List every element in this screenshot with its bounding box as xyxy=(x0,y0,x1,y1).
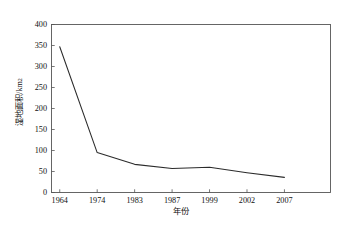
y-tick-label-50: 50 xyxy=(39,167,47,176)
y-axis-tick-labels: 050100150200250300350400 xyxy=(35,20,47,197)
x-axis-tick-labels: 1964197419831987199920022007 xyxy=(52,196,293,205)
y-tick-label-400: 400 xyxy=(35,20,47,29)
y-tick-label-250: 250 xyxy=(35,83,47,92)
line-chart-svg: 050100150200250300350400 196419741983198… xyxy=(0,0,361,232)
chart-figure: 湿地面积/km2 年份 050100150200250300350400 196… xyxy=(0,0,361,232)
y-axis-ticks xyxy=(52,25,55,193)
y-tick-label-100: 100 xyxy=(35,146,47,155)
x-tick-label-1999: 1999 xyxy=(201,196,217,205)
x-tick-label-2002: 2002 xyxy=(239,196,255,205)
x-tick-label-1987: 1987 xyxy=(164,196,180,205)
plot-frame xyxy=(52,25,331,193)
x-tick-label-2007: 2007 xyxy=(276,196,292,205)
y-tick-label-150: 150 xyxy=(35,125,47,134)
x-tick-label-1964: 1964 xyxy=(52,196,68,205)
x-tick-label-1983: 1983 xyxy=(126,196,142,205)
y-tick-label-200: 200 xyxy=(35,104,47,113)
axes-group xyxy=(52,25,331,193)
y-tick-label-300: 300 xyxy=(35,62,47,71)
data-series-group xyxy=(60,47,285,178)
x-tick-label-1974: 1974 xyxy=(89,196,105,205)
y-tick-label-350: 350 xyxy=(35,41,47,50)
y-tick-label-0: 0 xyxy=(43,188,47,197)
x-axis-ticks xyxy=(60,189,285,192)
series-line-wetland-area xyxy=(60,47,285,178)
plot-area-wrapper: 050100150200250300350400 196419741983198… xyxy=(0,0,361,232)
